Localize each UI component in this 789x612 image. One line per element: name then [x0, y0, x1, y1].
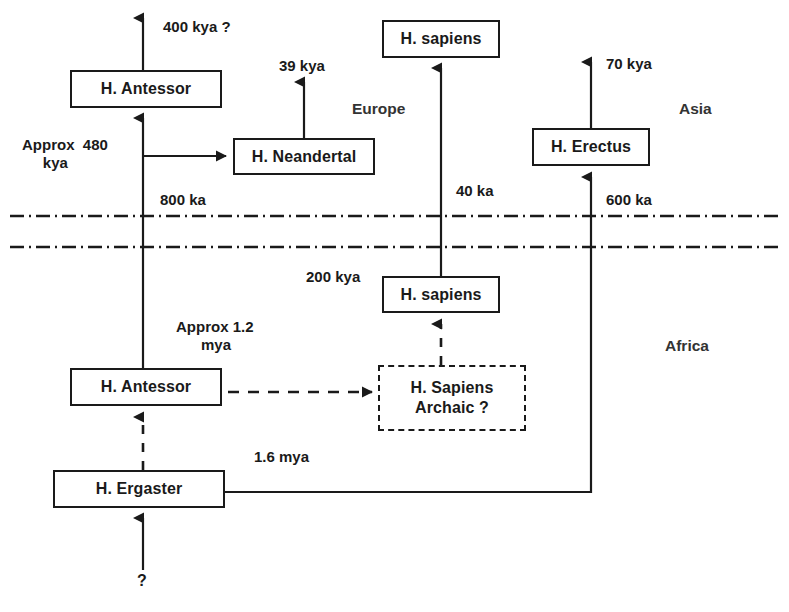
node-antessor-africa[interactable]: H. Antessor — [70, 368, 222, 406]
label-1-6-mya: 1.6 mya — [254, 448, 309, 466]
label-40-ka: 40 ka — [456, 182, 494, 200]
label-approx-480-kya: Approx 480 kya — [22, 136, 108, 172]
node-label: H. sapiens — [400, 285, 481, 305]
node-label: H. Antessor — [101, 79, 191, 99]
node-erectus-asia[interactable]: H. Erectus — [532, 128, 650, 166]
label-39-kya: 39 kya — [279, 57, 325, 75]
label-200-kya: 200 kya — [306, 268, 360, 286]
label-approx-1-2-mya: Approx 1.2 mya — [176, 318, 254, 354]
region-label-asia: Asia — [679, 100, 712, 118]
node-sapiens-europe[interactable]: H. sapiens — [382, 20, 500, 58]
node-label: H. Antessor — [101, 377, 191, 397]
label-400-kya: 400 kya ? — [163, 18, 231, 36]
label-600-ka: 600 ka — [606, 191, 652, 209]
node-label: H. Erectus — [551, 137, 631, 157]
node-label: H. Neandertal — [252, 147, 356, 167]
edge-ergaster-to-erectus — [225, 177, 591, 492]
label-unknown-ancestor: ? — [137, 572, 147, 590]
evolution-diagram: H. Antessor H. Neandertal H. sapiens H. … — [0, 0, 789, 612]
node-sapiens-archaic[interactable]: H. Sapiens Archaic ? — [378, 365, 526, 431]
region-label-africa: Africa — [665, 337, 709, 355]
label-800-ka: 800 ka — [160, 191, 206, 209]
node-label: H. Ergaster — [96, 479, 182, 499]
node-label: H. sapiens — [400, 29, 481, 49]
node-ergaster[interactable]: H. Ergaster — [53, 470, 225, 508]
region-label-europe: Europe — [352, 100, 405, 118]
node-neandertal[interactable]: H. Neandertal — [233, 138, 375, 175]
node-label-line1: H. Sapiens — [411, 378, 494, 398]
node-label-line2: Archaic ? — [415, 398, 489, 418]
node-antessor-europe[interactable]: H. Antessor — [70, 70, 222, 108]
label-70-kya: 70 kya — [606, 55, 652, 73]
node-sapiens-africa[interactable]: H. sapiens — [382, 276, 500, 313]
